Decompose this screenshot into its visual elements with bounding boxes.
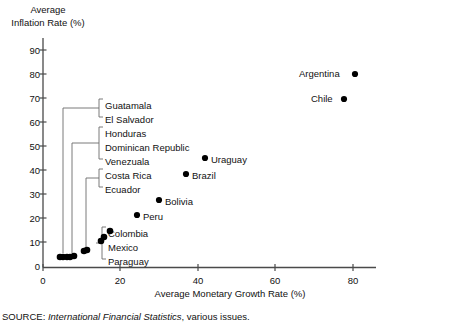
- marker-paraguay: [98, 238, 105, 245]
- marker-ecuador: [81, 248, 88, 255]
- marker-el-salvador: [57, 254, 64, 261]
- marker-argentina: [352, 71, 358, 77]
- source-suffix: , various issues.: [182, 311, 250, 322]
- figure-scatter-inflation-vs-money-growth: Average Inflation Rate (%) Average Monet…: [0, 0, 460, 324]
- marker-bolivia: [156, 197, 162, 203]
- axis-lines: [43, 38, 376, 268]
- marker-brazil: [183, 171, 189, 177]
- marker-colombia: [107, 228, 114, 235]
- marker-peru: [134, 212, 140, 218]
- source-note: SOURCE: International Financial Statisti…: [2, 311, 250, 322]
- leader-lines: [63, 99, 106, 259]
- source-prefix: SOURCE:: [2, 311, 45, 322]
- plot-canvas: [0, 0, 460, 324]
- marker-uraguay: [202, 155, 208, 161]
- source-title: International Financial Statistics: [48, 311, 182, 322]
- marker-chile: [341, 96, 347, 102]
